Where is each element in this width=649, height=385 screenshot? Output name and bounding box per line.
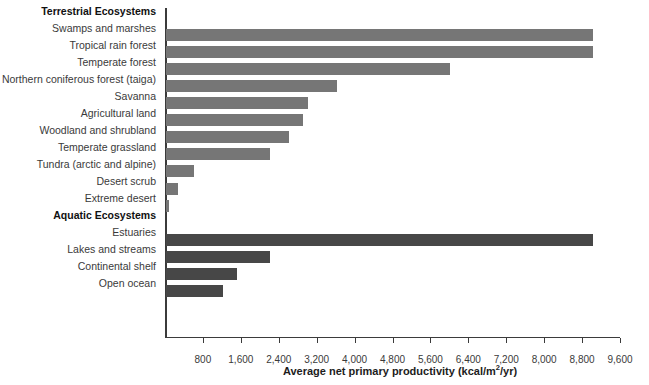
category-label: Lakes and streams bbox=[0, 243, 156, 255]
x-axis-tick bbox=[241, 338, 242, 343]
bar-aquatic bbox=[166, 268, 237, 280]
category-label: Extreme desert bbox=[0, 192, 156, 204]
x-axis-title-main: Average net primary productivity (kcal/m bbox=[283, 365, 496, 377]
group-header-label: Aquatic Ecosystems bbox=[0, 209, 156, 221]
x-axis-tick-label: 800 bbox=[195, 354, 212, 365]
bar-terrestrial bbox=[166, 80, 337, 92]
x-axis-tick bbox=[544, 338, 545, 343]
category-label: Temperate grassland bbox=[0, 141, 156, 153]
category-label: Open ocean bbox=[0, 277, 156, 289]
category-label: Estuaries bbox=[0, 226, 156, 238]
category-label: Northern coniferous forest (taiga) bbox=[0, 73, 156, 85]
bar-terrestrial bbox=[166, 200, 169, 212]
x-axis-tick bbox=[203, 338, 204, 343]
x-axis-tick bbox=[430, 338, 431, 343]
npp-bar-chart: Terrestrial EcosystemsSwamps and marshes… bbox=[0, 0, 649, 385]
x-axis-title: Average net primary productivity (kcal/m… bbox=[165, 365, 635, 377]
category-label: Swamps and marshes bbox=[0, 22, 156, 34]
category-label: Desert scrub bbox=[0, 175, 156, 187]
bar-terrestrial bbox=[166, 97, 308, 109]
x-axis-tick bbox=[506, 338, 507, 343]
x-axis-tick-label: 3,200 bbox=[304, 354, 329, 365]
x-axis-tick bbox=[317, 338, 318, 343]
x-axis-tick bbox=[393, 338, 394, 343]
x-axis-tick bbox=[355, 338, 356, 343]
category-label: Continental shelf bbox=[0, 260, 156, 272]
category-label: Tundra (arctic and alpine) bbox=[0, 158, 156, 170]
bar-terrestrial bbox=[166, 131, 289, 143]
bar-terrestrial bbox=[166, 46, 593, 58]
category-label: Temperate forest bbox=[0, 56, 156, 68]
group-header-label: Terrestrial Ecosystems bbox=[0, 5, 156, 17]
bar-terrestrial bbox=[166, 183, 178, 195]
x-axis-title-tail: /yr) bbox=[500, 365, 517, 377]
x-axis-tick-label: 4,000 bbox=[342, 354, 367, 365]
x-axis-tick bbox=[279, 338, 280, 343]
category-label: Savanna bbox=[0, 90, 156, 102]
bar-terrestrial bbox=[166, 114, 303, 126]
plot-area: 8001,6002,4003,2004,0004,8005,6006,4007,… bbox=[165, 8, 635, 338]
bar-terrestrial bbox=[166, 148, 270, 160]
x-axis-tick bbox=[582, 338, 583, 343]
bar-aquatic bbox=[166, 251, 270, 263]
x-axis-tick-label: 1,600 bbox=[228, 354, 253, 365]
category-label: Woodland and shrubland bbox=[0, 124, 156, 136]
bar-terrestrial bbox=[166, 63, 450, 75]
x-axis-tick-label: 6,400 bbox=[456, 354, 481, 365]
x-axis-tick-label: 8,800 bbox=[570, 354, 595, 365]
category-label-column: Terrestrial EcosystemsSwamps and marshes… bbox=[0, 0, 160, 385]
category-label: Agricultural land bbox=[0, 107, 156, 119]
x-axis-tick bbox=[620, 338, 621, 343]
x-axis-tick-label: 9,600 bbox=[607, 354, 632, 365]
x-axis-tick-label: 4,800 bbox=[380, 354, 405, 365]
category-label: Tropical rain forest bbox=[0, 39, 156, 51]
bar-aquatic bbox=[166, 285, 223, 297]
bar-aquatic bbox=[166, 234, 593, 246]
x-axis-tick-label: 5,600 bbox=[418, 354, 443, 365]
bar-terrestrial bbox=[166, 29, 593, 41]
x-axis-tick-label: 2,400 bbox=[266, 354, 291, 365]
x-axis-tick-label: 8,000 bbox=[532, 354, 557, 365]
x-axis-tick bbox=[468, 338, 469, 343]
bar-terrestrial bbox=[166, 165, 194, 177]
